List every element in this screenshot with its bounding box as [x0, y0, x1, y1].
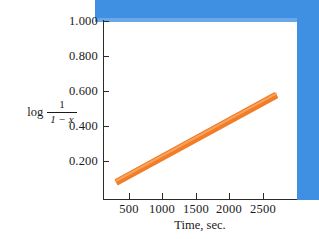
y-tick-1.000 [103, 21, 109, 22]
x-tick-1000 [162, 193, 163, 199]
y-axis-title-denominator: 1 − x [47, 114, 76, 126]
x-tick-500 [129, 193, 130, 199]
y-tick-label-0.200: 0.200 [69, 155, 98, 168]
y-axis-title-fraction: 1 1 − x [47, 99, 76, 125]
x-axis-title: Time, sec. [103, 218, 297, 233]
y-axis-title: log 1 1 − x [6, 99, 98, 125]
figure-canvas: 1.000 0.800 0.600 0.400 0.200 500 1000 1… [0, 0, 319, 239]
x-tick-2500 [263, 193, 264, 199]
y-axis-title-numerator: 1 [56, 99, 68, 111]
x-axis-line [103, 199, 297, 200]
x-tick-2000 [229, 193, 230, 199]
y-tick-0.600 [103, 91, 109, 92]
y-tick-label-1.000: 1.000 [69, 15, 98, 28]
y-tick-0.200 [103, 161, 109, 162]
plot-area [103, 20, 297, 200]
x-tick-label-2500: 2500 [240, 203, 286, 216]
y-tick-0.800 [103, 56, 109, 57]
y-tick-label-0.600: 0.600 [69, 85, 98, 98]
y-tick-label-0.800: 0.800 [69, 50, 98, 63]
y-axis-line [103, 20, 104, 200]
y-axis-title-log: log [27, 105, 43, 120]
scan-edge-right-artifact [297, 0, 319, 200]
x-tick-1500 [196, 193, 197, 199]
y-tick-0.400 [103, 126, 109, 127]
scan-edge-top-artifact [95, 0, 319, 20]
data-line-highlight [116, 92, 278, 181]
